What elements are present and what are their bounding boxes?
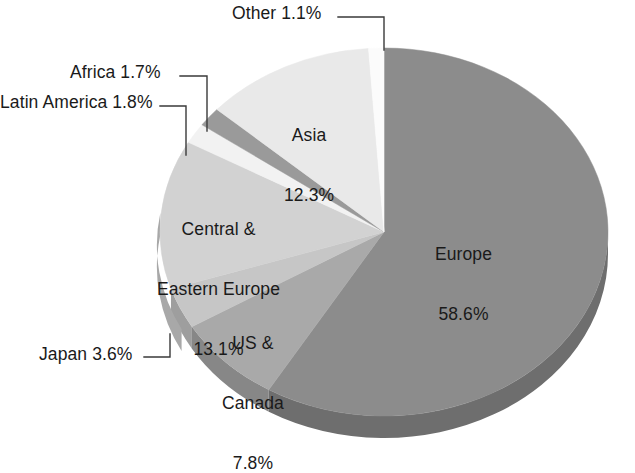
slice-label-usc-line1: US & [222, 334, 284, 354]
leader-line-africa [180, 76, 207, 131]
slice-label-latin-america: Latin America 1.8% [0, 93, 153, 113]
slice-label-us-canada: US & Canada 7.8% [222, 294, 284, 473]
slice-label-asia: Asia 12.3% [284, 86, 334, 246]
leader-line-latin-america [160, 106, 186, 155]
slice-label-africa: Africa 1.7% [70, 63, 161, 83]
slice-label-asia-value: 12.3% [284, 186, 334, 206]
slice-label-japan: Japan 3.6% [39, 345, 132, 365]
slice-label-usc-line2: Canada [222, 394, 284, 414]
leader-line-other [338, 17, 384, 50]
slice-label-cee-line1: Central & [157, 220, 280, 240]
slice-label-europe: Europe 58.6% [435, 205, 492, 365]
slice-label-usc-value: 7.8% [222, 454, 284, 473]
slice-label-other: Other 1.1% [232, 4, 322, 24]
slice-label-europe-name: Europe [435, 245, 492, 265]
slice-label-europe-value: 58.6% [435, 305, 492, 325]
slice-label-asia-name: Asia [284, 126, 334, 146]
